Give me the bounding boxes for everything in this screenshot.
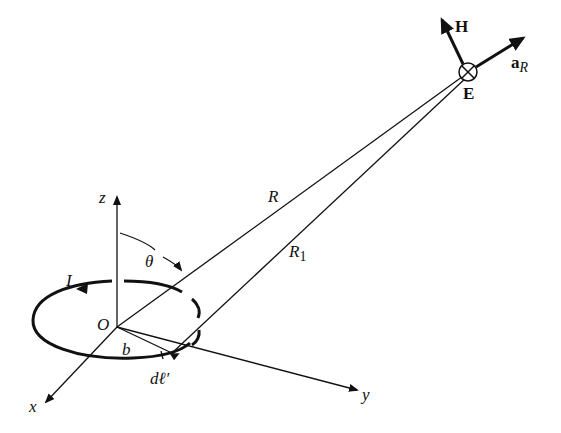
dipole-diagram: z x y O θ I b dℓ′ R R1 H E aR [0, 0, 561, 433]
H-label: H [455, 18, 468, 35]
field-point [459, 63, 477, 81]
current-label: I [66, 272, 72, 289]
line-R1 [172, 76, 468, 353]
current-loop [33, 281, 199, 358]
E-label: E [463, 85, 474, 102]
x-axis [46, 327, 117, 402]
theta-arc [120, 233, 155, 250]
line-R [117, 74, 466, 327]
z-axis-label: z [99, 189, 106, 206]
R-label: R [268, 188, 278, 205]
x-axis-label: x [29, 398, 37, 415]
R1-label: R1 [289, 243, 306, 260]
diagram-drawing [0, 0, 561, 433]
aR-label: aR [511, 54, 528, 71]
radius-label: b [122, 341, 131, 358]
element-label: dℓ′ [150, 370, 169, 387]
origin-label: O [97, 316, 109, 333]
theta-label: θ [145, 253, 153, 270]
y-axis-label: y [362, 386, 370, 403]
